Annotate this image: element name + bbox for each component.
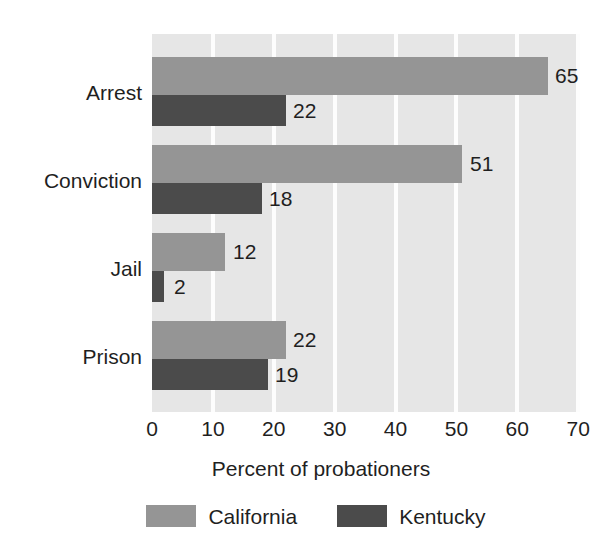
bar-arrest-california: [152, 57, 548, 95]
bar-value-jail-kentucky: 2: [174, 276, 186, 297]
bar-chart: 65 22 51 18 12 2 22 19 Arrest Conviction…: [0, 0, 614, 559]
x-tick-20: 20: [262, 418, 285, 440]
category-axis: Arrest Conviction Jail Prison: [0, 34, 142, 412]
legend-item-california: California: [146, 505, 297, 527]
bar-conviction-kentucky: [152, 183, 262, 214]
bar-value-conviction-california: 51: [470, 153, 493, 174]
category-label-conviction: Conviction: [0, 170, 142, 191]
bar-value-prison-california: 22: [293, 329, 316, 350]
legend-label-kentucky: Kentucky: [399, 506, 485, 527]
x-tick-40: 40: [384, 418, 407, 440]
bar-jail-kentucky: [152, 271, 164, 302]
category-label-prison: Prison: [0, 346, 142, 367]
x-axis-title: Percent of probationers: [0, 457, 614, 481]
gridline-70: [576, 34, 580, 412]
x-tick-70: 70: [567, 418, 590, 440]
legend-item-kentucky: Kentucky: [337, 505, 485, 527]
x-tick-10: 10: [201, 418, 224, 440]
bar-conviction-california: [152, 145, 462, 183]
category-label-arrest: Arrest: [0, 82, 142, 103]
bar-jail-california: [152, 233, 225, 271]
plot-area: 65 22 51 18 12 2 22 19: [152, 34, 578, 412]
x-tick-0: 0: [146, 418, 158, 440]
bar-value-arrest-kentucky: 22: [293, 100, 316, 121]
bar-value-conviction-kentucky: 18: [269, 188, 292, 209]
legend-label-california: California: [208, 506, 297, 527]
legend-swatch-kentucky-icon: [337, 505, 387, 527]
category-label-jail: Jail: [0, 258, 142, 279]
bar-value-prison-kentucky: 19: [275, 364, 298, 385]
bar-prison-kentucky: [152, 359, 268, 390]
bar-prison-california: [152, 321, 286, 359]
x-tick-50: 50: [445, 418, 468, 440]
bar-value-arrest-california: 65: [555, 65, 578, 86]
bar-arrest-kentucky: [152, 95, 286, 126]
x-axis-ticks: 0 10 20 30 40 50 60 70: [152, 418, 578, 444]
bar-value-jail-california: 12: [233, 241, 256, 262]
legend-swatch-california-icon: [146, 505, 196, 527]
x-tick-60: 60: [506, 418, 529, 440]
legend: California Kentucky: [0, 505, 614, 527]
x-tick-30: 30: [323, 418, 346, 440]
